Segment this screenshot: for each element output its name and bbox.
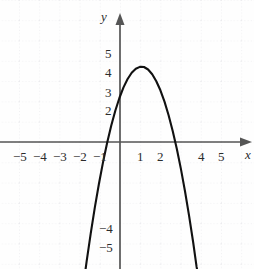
y-tick-2: 2 [105,104,112,117]
y-tick-4: 4 [105,66,112,79]
x-tick-minus1: −1 [93,150,107,163]
grid-lines [0,0,254,269]
x-axis-label: x [245,148,251,161]
x-tick-5: 5 [218,150,225,163]
parabola-plot [0,0,254,269]
y-tick-3: 3 [105,86,112,99]
x-tick-1: 1 [137,150,144,163]
x-tick-minus5: −5 [13,150,27,163]
y-tick-5: 5 [105,47,112,60]
y-axis-label: y [101,10,107,23]
x-tick-minus2: −2 [73,150,87,163]
x-tick-minus4: −4 [33,150,47,163]
x-tick-2: 2 [157,150,164,163]
graph-figure: y x −5 −4 −3 −2 −1 1 2 4 5 5 4 3 2 −4 −5 [0,0,254,269]
y-tick-minus4: −4 [99,222,113,235]
y-tick-minus5: −5 [99,241,113,254]
x-tick-4: 4 [198,150,205,163]
x-tick-minus3: −3 [53,150,67,163]
